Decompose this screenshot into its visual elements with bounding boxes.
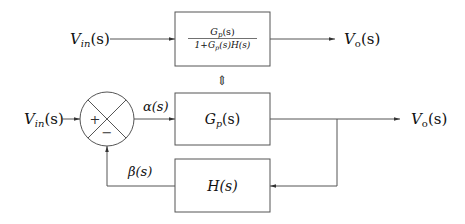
feedback-block-label: H(s) <box>206 178 237 194</box>
equivalent-system: Vin(s) Gp(s) 1+Gp(s)H(s) Vo(s) <box>70 12 380 66</box>
feedback-signal-label: β(s) <box>127 164 152 179</box>
equiv-input-label: Vin(s) <box>70 30 110 49</box>
output-label: Vo(s) <box>411 110 447 129</box>
feedback-system: Vin(s) + − α(s) Gp(s) Vo(s) H(s) β(s) <box>24 92 447 212</box>
equiv-output-label: Vo(s) <box>344 30 380 49</box>
forward-block-label: Gp(s) <box>205 111 240 129</box>
closed-loop-transfer-block <box>175 12 270 66</box>
transfer-numerator: Gp(s) <box>210 26 234 39</box>
equivalence-arrow-icon: ⇕ <box>217 73 228 88</box>
error-signal-label: α(s) <box>143 99 169 114</box>
minus-sign: − <box>102 125 113 140</box>
plus-sign: + <box>90 112 101 127</box>
input-label: Vin(s) <box>24 110 64 129</box>
transfer-denominator: 1+Gp(s)H(s) <box>195 40 251 52</box>
block-diagram: Vin(s) Gp(s) 1+Gp(s)H(s) Vo(s) ⇕ Vin(s) … <box>0 0 465 224</box>
feedback-branch-arrow <box>270 119 337 186</box>
summing-junction: + − <box>80 92 134 146</box>
